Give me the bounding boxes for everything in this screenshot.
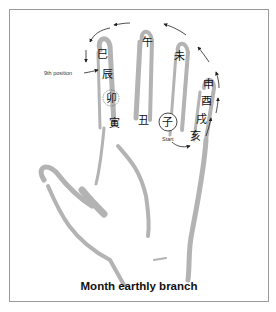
branch-chou: 丑 xyxy=(138,114,149,127)
branch-wei: 未 xyxy=(174,50,185,63)
branch-chen: 辰 xyxy=(102,68,113,81)
branch-wu: 午 xyxy=(142,36,153,49)
start-label: Start xyxy=(162,136,174,142)
arrow-over-ring xyxy=(198,47,209,62)
hand-diagram: 巳 辰 卯 寅 午 丑 未 子 申 酉 戌 亥 Start 9th positi… xyxy=(0,0,276,312)
branch-mao: 卯 xyxy=(106,92,117,105)
branch-si: 巳 xyxy=(97,48,108,61)
branch-you: 酉 xyxy=(201,95,212,108)
branch-yin: 寅 xyxy=(109,116,120,130)
arrow-up-right-2 xyxy=(216,72,219,88)
branch-shen: 申 xyxy=(203,78,214,91)
ninth-position-label: 9th position xyxy=(44,70,72,76)
diagram-caption: Month earthly branch xyxy=(9,280,269,292)
arrow-start-to-hai xyxy=(172,142,190,147)
arrow-ninth-position xyxy=(84,70,98,73)
branch-hai: 亥 xyxy=(190,129,201,143)
branch-zi: 子 xyxy=(162,116,173,129)
branch-xu: 戌 xyxy=(196,113,207,126)
arrow-up-right-1 xyxy=(216,98,218,113)
arrow-to-index xyxy=(114,23,130,25)
arrow-over-middle xyxy=(164,24,186,35)
